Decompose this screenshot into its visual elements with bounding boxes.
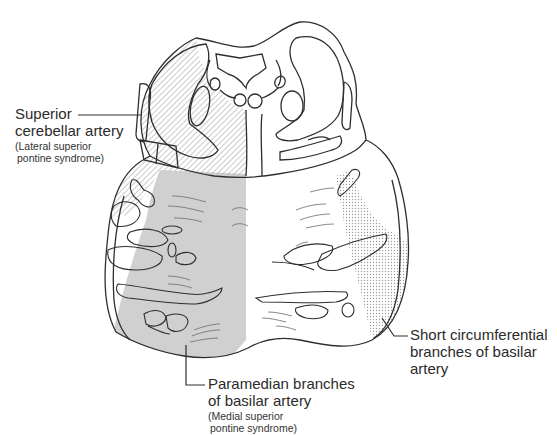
label-medial-syndrome-line2: pontine syndrome) xyxy=(208,422,355,435)
label-paramedian-line2: of basilar artery xyxy=(208,393,355,410)
label-lateral-syndrome-line1: (Lateral superior xyxy=(15,140,123,153)
label-superior-cerebellar-line1: Superior xyxy=(15,106,123,123)
label-paramedian-line1: Paramedian branches xyxy=(208,376,355,393)
label-lateral-syndrome-line2: pontine syndrome) xyxy=(15,152,123,165)
label-short-circ-line3: artery xyxy=(410,361,548,378)
label-paramedian-branches: Paramedian branches of basilar artery (M… xyxy=(208,376,355,435)
label-short-circ-line1: Short circumferential xyxy=(410,327,548,344)
label-superior-cerebellar-line2: cerebellar artery xyxy=(15,123,123,140)
short-circumferential-territory xyxy=(336,170,410,340)
label-superior-cerebellar-artery: Superior cerebellar artery (Lateral supe… xyxy=(15,106,123,165)
label-short-circumferential-branches: Short circumferential branches of basila… xyxy=(410,327,548,377)
label-medial-syndrome-line1: (Medial superior xyxy=(208,410,355,423)
label-short-circ-line2: branches of basilar xyxy=(410,344,548,361)
